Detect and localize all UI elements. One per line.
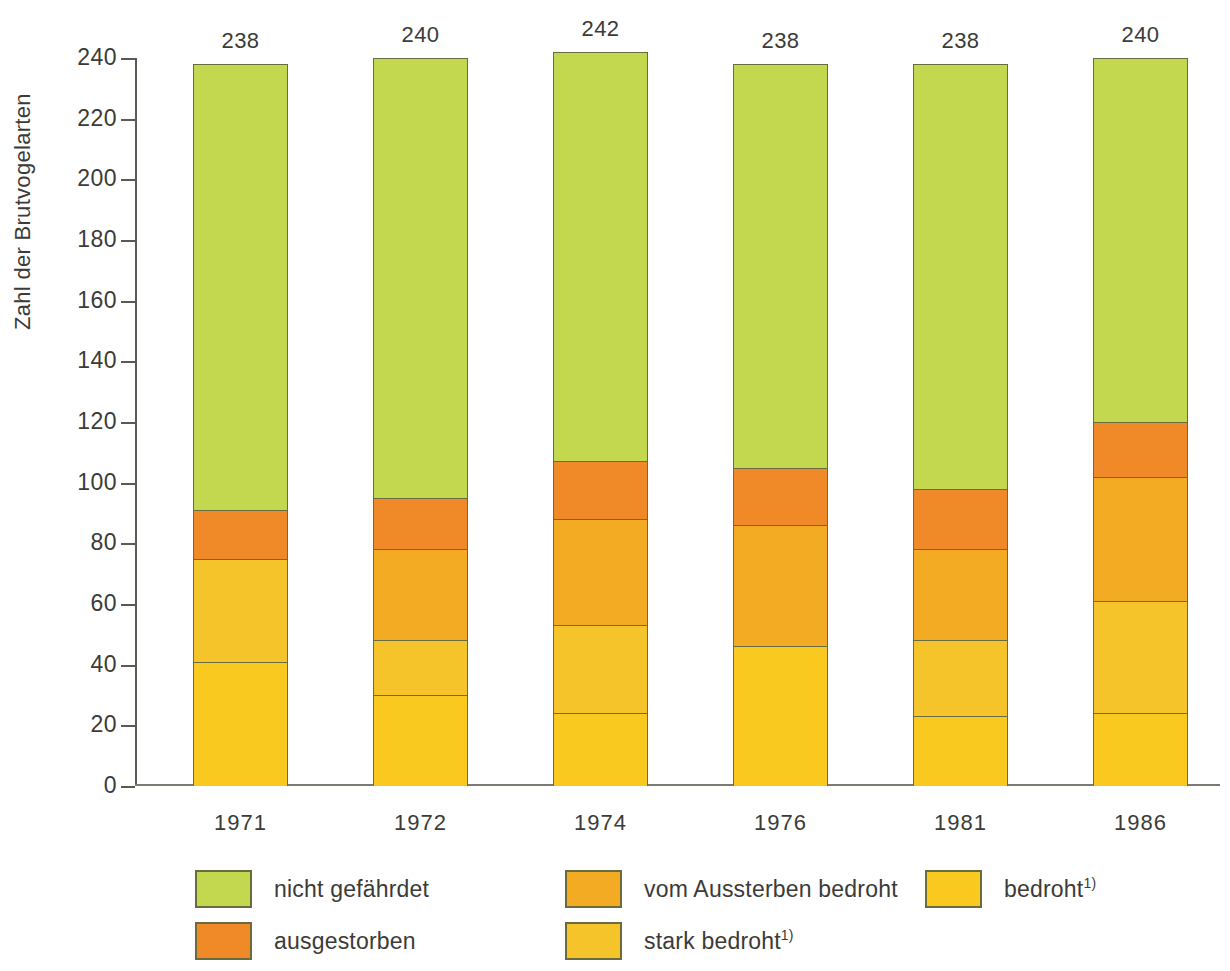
y-axis-tick [121, 543, 135, 545]
y-axis-tick [121, 422, 135, 424]
legend-label: nicht gefährdet [274, 876, 429, 903]
y-axis-tick-label: 200 [0, 165, 117, 192]
bar-segment [914, 549, 1007, 640]
bar-segment [914, 64, 1007, 489]
bar-1971 [193, 64, 288, 786]
y-axis-tick-label: 120 [0, 408, 117, 435]
y-axis-tick [121, 119, 135, 121]
bar-total-label: 238 [193, 28, 288, 54]
bar-segment [194, 662, 287, 786]
bar-1974 [553, 52, 648, 786]
bar-segment [374, 498, 467, 550]
bar-segment [554, 461, 647, 519]
bar-1976 [733, 64, 828, 786]
bar-segment [554, 713, 647, 786]
y-axis-tick-label: 180 [0, 226, 117, 253]
legend-label: bedroht1) [1004, 875, 1096, 903]
bar-segment [1094, 477, 1187, 601]
bar-segment [734, 525, 827, 646]
x-axis-tick-label: 1986 [1093, 810, 1188, 836]
y-axis-tick-label: 60 [0, 590, 117, 617]
bar-segment [194, 64, 287, 510]
bar-chart: Zahl der Brutvogelarten 2402202001801601… [0, 0, 1230, 971]
legend-swatch [195, 870, 252, 908]
y-axis-tick [121, 301, 135, 303]
bar-1981 [913, 64, 1008, 786]
legend-swatch [565, 870, 622, 908]
legend-item[interactable]: ausgestorben [195, 922, 416, 960]
legend-swatch [565, 922, 622, 960]
bar-total-label: 240 [1093, 22, 1188, 48]
legend-item[interactable]: bedroht1) [925, 870, 1096, 908]
y-axis-tick [121, 483, 135, 485]
bar-total-label: 240 [373, 22, 468, 48]
y-axis-tick [121, 361, 135, 363]
y-axis-tick-label: 160 [0, 287, 117, 314]
x-axis-tick-label: 1976 [733, 810, 828, 836]
bar-segment [374, 640, 467, 695]
bar-1986 [1093, 58, 1188, 786]
bar-segment [734, 64, 827, 467]
y-axis-tick-label: 220 [0, 105, 117, 132]
bar-segment [1094, 58, 1187, 422]
bar-segment [1094, 713, 1187, 786]
y-axis-tick-label: 0 [0, 772, 117, 799]
bar-segment [374, 695, 467, 786]
x-axis-tick-label: 1971 [193, 810, 288, 836]
y-axis-tick [121, 179, 135, 181]
y-axis-tick-label: 100 [0, 469, 117, 496]
y-axis-tick-label: 20 [0, 711, 117, 738]
bar-segment [914, 640, 1007, 716]
legend-swatch [925, 870, 982, 908]
y-axis-tick [121, 58, 135, 60]
y-axis-tick-label: 240 [0, 44, 117, 71]
y-axis-tick-label: 140 [0, 347, 117, 374]
bar-total-label: 238 [913, 28, 1008, 54]
bar-segment [554, 625, 647, 713]
bar-segment [914, 489, 1007, 550]
bar-segment [194, 559, 287, 662]
legend-item[interactable]: vom Aussterben bedroht [565, 870, 898, 908]
bar-segment [914, 716, 1007, 786]
y-axis-tick [121, 240, 135, 242]
bar-segment [374, 549, 467, 640]
y-axis-tick-label: 40 [0, 651, 117, 678]
y-axis-tick [121, 725, 135, 727]
legend-label: vom Aussterben bedroht [644, 876, 898, 903]
x-axis-tick-label: 1974 [553, 810, 648, 836]
bar-segment [734, 646, 827, 786]
bar-1972 [373, 58, 468, 786]
bar-segment [734, 468, 827, 526]
bar-segment [1094, 422, 1187, 477]
legend-swatch [195, 922, 252, 960]
chart-legend: nicht gefährdetausgestorbenvom Aussterbe… [0, 860, 1230, 960]
bar-segment [554, 52, 647, 462]
x-axis-line [135, 784, 1220, 786]
bar-total-label: 238 [733, 28, 828, 54]
bar-segment [554, 519, 647, 625]
y-axis-tick [121, 604, 135, 606]
y-axis-tick-label: 80 [0, 529, 117, 556]
x-axis-tick-label: 1972 [373, 810, 468, 836]
bar-total-label: 242 [553, 16, 648, 42]
legend-item[interactable]: nicht gefährdet [195, 870, 429, 908]
y-axis-tick [121, 786, 135, 788]
bar-segment [374, 58, 467, 498]
legend-footnote-marker: 1) [781, 927, 794, 943]
legend-footnote-marker: 1) [1083, 875, 1096, 891]
legend-label: stark bedroht1) [644, 927, 794, 955]
legend-item[interactable]: stark bedroht1) [565, 922, 794, 960]
plot-area: 240220200180160140120100806040200 238240… [135, 40, 1220, 786]
y-axis-tick [121, 665, 135, 667]
legend-label: ausgestorben [274, 928, 416, 955]
x-axis-tick-label: 1981 [913, 810, 1008, 836]
y-axis-line [135, 58, 137, 786]
bar-segment [194, 510, 287, 559]
bar-segment [1094, 601, 1187, 713]
